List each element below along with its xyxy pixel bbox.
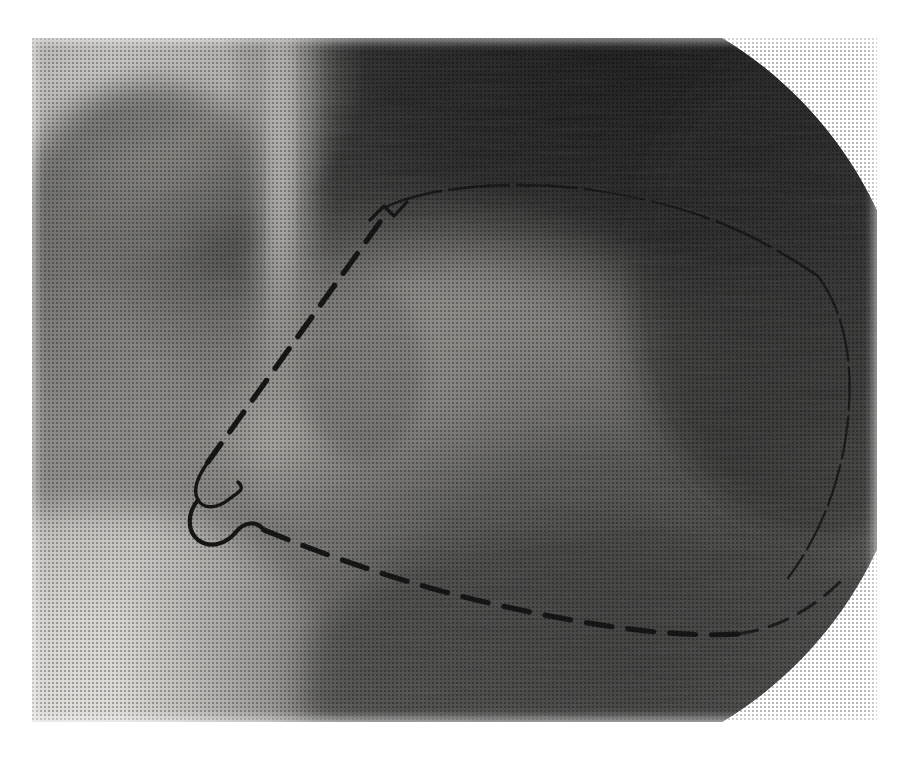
caption-remnant-text — [0, 0, 914, 16]
radiograph-image — [32, 38, 877, 722]
radiograph-plate — [32, 38, 877, 722]
film-grain — [32, 38, 877, 722]
figure-page — [0, 0, 914, 759]
